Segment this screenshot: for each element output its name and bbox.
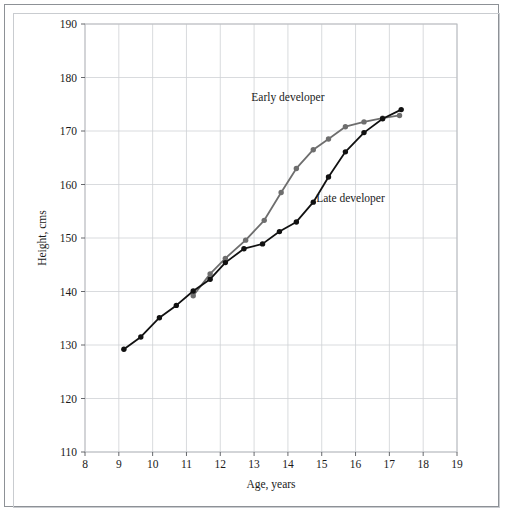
data-point-marker <box>157 315 162 320</box>
x-axis-tick-label: 8 <box>82 458 88 470</box>
data-point-marker <box>361 130 366 135</box>
figure-page: 8910111213141516171819110120130140150160… <box>0 0 505 513</box>
data-point-marker <box>241 246 246 251</box>
data-point-marker <box>294 219 299 224</box>
y-axis-tick-label: 140 <box>60 286 78 298</box>
x-axis-tick-label: 13 <box>248 458 260 470</box>
series-annotation-late-developer: Late developer <box>316 192 385 205</box>
data-point-marker <box>278 190 283 195</box>
y-axis-tick-label: 170 <box>60 125 78 137</box>
data-point-marker <box>399 107 404 112</box>
data-point-marker <box>326 174 331 179</box>
x-axis-tick-label: 15 <box>316 458 328 470</box>
data-point-marker <box>380 116 385 121</box>
y-axis-tick-label: 130 <box>60 339 78 351</box>
data-point-marker <box>174 303 179 308</box>
series-annotation-early-developer: Early developer <box>251 91 324 104</box>
data-point-marker <box>262 218 267 223</box>
y-axis-tick-label: 120 <box>60 393 78 405</box>
series-line <box>124 110 401 350</box>
data-point-marker <box>121 347 126 352</box>
height-vs-age-line-chart: 8910111213141516171819110120130140150160… <box>0 0 505 513</box>
y-axis-tick-label: 180 <box>60 72 78 84</box>
data-point-marker <box>207 276 212 281</box>
x-axis-tick-label: 12 <box>215 458 227 470</box>
x-axis-tick-label: 17 <box>384 458 396 470</box>
series-late-developer <box>121 107 404 352</box>
x-axis-tick-label: 10 <box>147 458 159 470</box>
x-axis-tick-label: 16 <box>350 458 362 470</box>
x-axis-tick-label: 19 <box>451 458 463 470</box>
x-axis-tick-label: 9 <box>116 458 122 470</box>
data-point-marker <box>243 237 248 242</box>
data-point-marker <box>397 113 402 118</box>
series-early-developer <box>191 113 403 299</box>
x-axis-tick-label: 11 <box>181 458 192 470</box>
data-point-marker <box>326 136 331 141</box>
data-point-marker <box>191 293 196 298</box>
x-axis-title: Age, years <box>246 478 296 491</box>
data-point-marker <box>343 124 348 129</box>
data-point-marker <box>343 149 348 154</box>
data-point-marker <box>311 147 316 152</box>
y-axis-tick-label: 190 <box>60 18 78 30</box>
x-axis-tick-label: 18 <box>417 458 429 470</box>
x-axis-tick-label: 14 <box>282 458 294 470</box>
y-axis-tick-label: 110 <box>60 446 77 458</box>
y-axis-tick-label: 150 <box>60 232 78 244</box>
series-line <box>193 115 399 295</box>
data-point-marker <box>277 229 282 234</box>
growth-chart-figure: 8910111213141516171819110120130140150160… <box>0 0 505 513</box>
data-point-marker <box>361 119 366 124</box>
data-point-marker <box>294 166 299 171</box>
data-point-marker <box>138 334 143 339</box>
data-point-marker <box>223 260 228 265</box>
y-axis-title: Height, cms <box>36 210 49 266</box>
y-axis-tick-label: 160 <box>60 179 78 191</box>
data-point-marker <box>191 288 196 293</box>
data-point-marker <box>260 241 265 246</box>
data-point-marker <box>207 271 212 276</box>
